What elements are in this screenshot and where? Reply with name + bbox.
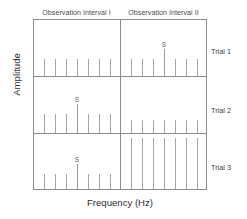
trial-3-interval-2-plot (121, 134, 207, 189)
spike (55, 174, 56, 189)
spike (175, 59, 176, 76)
spike (88, 59, 89, 76)
spike (186, 120, 187, 133)
spike (142, 120, 143, 133)
signal-spike (77, 104, 78, 133)
signal-spike (77, 164, 78, 189)
spike (186, 59, 187, 76)
spike (186, 138, 187, 189)
spike (44, 59, 45, 76)
spike (142, 59, 143, 76)
spike (66, 174, 67, 189)
spike (110, 59, 111, 76)
spike (142, 138, 143, 189)
spike (197, 59, 198, 76)
spike (55, 59, 56, 76)
spike (99, 59, 100, 76)
spike (44, 174, 45, 189)
spike (66, 59, 67, 76)
trial-label-3: Trial 3 (211, 163, 231, 172)
trial-panel-2: S (34, 77, 206, 133)
trial-2-interval-1-plot: S (34, 77, 120, 133)
spike (55, 114, 56, 133)
trial-1-interval-2-plot: S (121, 20, 207, 76)
spike (88, 174, 89, 189)
spike (99, 114, 100, 133)
trial-1-interval-1-plot (34, 20, 120, 76)
trial-3-interval-1-plot: S (34, 134, 120, 189)
spike (164, 138, 165, 189)
spike (197, 120, 198, 133)
spike (153, 120, 154, 133)
spike (153, 59, 154, 76)
spike (197, 138, 198, 189)
spike (110, 114, 111, 133)
spike (175, 138, 176, 189)
spike (88, 114, 89, 133)
spike (131, 120, 132, 133)
spike (66, 114, 67, 133)
spike (153, 138, 154, 189)
trial-panel-3: S (34, 134, 206, 189)
spike (175, 120, 176, 133)
signal-marker-label: S (75, 157, 79, 163)
spike (164, 120, 165, 133)
y-axis-label: Amplitude (11, 25, 22, 125)
spike (131, 59, 132, 76)
spike (110, 174, 111, 189)
trial-panel-1: S (34, 20, 206, 76)
observation-interval-2-label: Observation Interval II (120, 9, 207, 17)
trial-label-1: Trial 1 (211, 47, 231, 56)
trial-label-2: Trial 2 (211, 106, 231, 115)
figure-container: Observation Interval I Observation Inter… (0, 0, 247, 219)
signal-marker-label: S (75, 97, 79, 103)
spike (131, 138, 132, 189)
signal-spike (164, 49, 165, 76)
signal-marker-label: S (162, 42, 166, 48)
x-axis-label: Frequency (Hz) (33, 197, 207, 208)
observation-interval-1-label: Observation Interval I (33, 9, 120, 17)
spike (99, 174, 100, 189)
spike (77, 59, 78, 76)
trial-2-interval-2-plot (121, 77, 207, 133)
plot-frame: S S S (33, 19, 207, 190)
spike (44, 114, 45, 133)
